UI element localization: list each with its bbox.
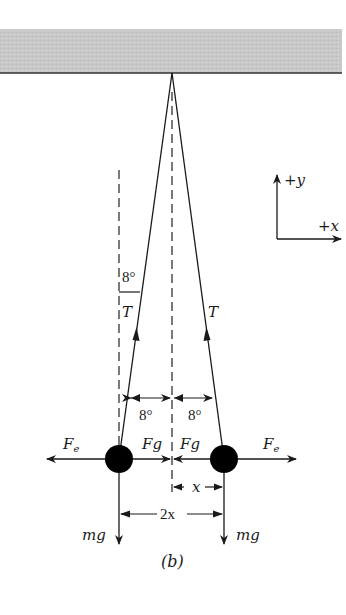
figure-caption: (b) — [161, 552, 184, 571]
tension-arrow-left-icon — [133, 327, 140, 341]
svg-text:2x: 2x — [160, 506, 176, 522]
ceiling — [0, 29, 342, 73]
coordinate-axes: +y +x — [277, 171, 341, 239]
y-axis-label: +y — [284, 171, 306, 189]
svg-text:x: x — [192, 478, 201, 496]
charged-pendulum-diagram: 8° T T 8° 8° Fe Fg Fg Fe mg mg x 2x — [0, 0, 346, 615]
weight-label-left: mg — [82, 526, 106, 544]
separation-dimension: 2x — [120, 506, 223, 522]
electric-force-label-left: Fe — [62, 435, 79, 454]
tension-arrow-right-icon — [204, 327, 211, 341]
gravity-force-label-right: Fg — [179, 435, 200, 453]
electric-force-label-right: Fe — [262, 435, 279, 454]
gravity-force-label-left: Fg — [141, 435, 162, 453]
charged-ball-left — [105, 445, 133, 473]
angle-label-bottom-left: 8° — [139, 407, 153, 423]
charged-ball-right — [210, 445, 238, 473]
right-string — [172, 73, 224, 459]
half-separation-dimension: x — [173, 478, 223, 496]
weight-label-right: mg — [236, 526, 260, 544]
x-axis-label: +x — [318, 217, 340, 235]
tension-label-left: T — [122, 303, 133, 321]
angle-label-bottom-right: 8° — [188, 407, 202, 423]
angle-label-top: 8° — [122, 269, 136, 285]
tension-label-right: T — [208, 303, 219, 321]
left-string — [119, 73, 172, 459]
